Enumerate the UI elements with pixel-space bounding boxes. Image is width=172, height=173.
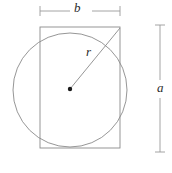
radius-label-r: r: [86, 45, 91, 58]
inscribed-rectangle: [40, 27, 120, 148]
geometry-svg: [0, 0, 172, 173]
height-label-a: a: [157, 81, 164, 94]
width-label-b: b: [74, 1, 81, 14]
center-dot: [68, 87, 72, 91]
radius-line: [70, 28, 120, 89]
figure-canvas: b a r: [0, 0, 172, 173]
